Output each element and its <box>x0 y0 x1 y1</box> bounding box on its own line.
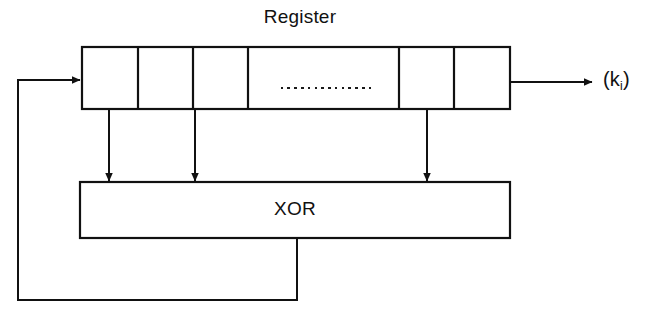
ellipsis-dot <box>321 87 324 90</box>
xor-label: XOR <box>80 198 510 220</box>
ellipsis-dot <box>362 87 365 90</box>
ellipsis-dot <box>281 87 284 90</box>
ellipsis-dot <box>301 87 304 90</box>
lfsr-diagram <box>0 0 655 315</box>
keystream-output-label: (ki) <box>603 68 630 91</box>
ellipsis-dot <box>355 87 358 90</box>
diagram-canvas: Register XOR (ki) <box>0 0 655 315</box>
ellipsis-dot <box>328 87 331 90</box>
register-box <box>82 47 510 109</box>
register-title: Register <box>0 6 600 28</box>
ellipsis-dot <box>348 87 351 90</box>
ellipsis-dot <box>315 87 318 90</box>
output-label-subscript: i <box>620 79 623 93</box>
ellipsis-dot <box>342 87 345 90</box>
output-label-close: ) <box>623 68 630 90</box>
ellipsis-dot <box>335 87 338 90</box>
register-ellipsis-icon <box>251 80 401 96</box>
ellipsis-dot <box>294 87 297 90</box>
ellipsis-dot <box>287 87 290 90</box>
output-label-main: (k <box>603 68 620 90</box>
ellipsis-dot <box>308 87 311 90</box>
ellipsis-dot <box>369 87 372 90</box>
